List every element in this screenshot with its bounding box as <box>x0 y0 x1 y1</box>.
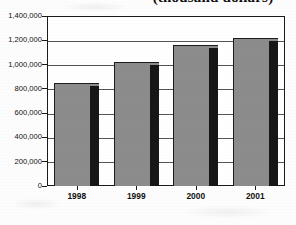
bar-2000 <box>173 45 218 186</box>
bar-shadow <box>150 65 159 186</box>
y-axis: 0200,000400,000600,000800,0001,000,0001,… <box>0 0 42 225</box>
bars-layer <box>47 16 285 186</box>
y-axis-label: 1,400,000 <box>2 12 42 20</box>
y-axis-label: 1,200,000 <box>2 36 42 44</box>
bar-shadow <box>209 48 218 186</box>
y-axis-label: 200,000 <box>2 158 42 166</box>
chart-title: (thousand dollars) <box>130 0 296 6</box>
bar-2001 <box>233 38 278 186</box>
x-axis-label-2000: 2000 <box>176 192 216 200</box>
y-axis-label: 800,000 <box>2 85 42 93</box>
bar-shadow <box>90 86 99 186</box>
x-axis-label-1999: 1999 <box>116 192 156 200</box>
bar-shadow <box>269 41 278 186</box>
bar-1998 <box>54 83 99 186</box>
x-axis-tick <box>77 186 78 190</box>
x-axis-tick <box>255 186 256 190</box>
bar-1999 <box>114 62 159 186</box>
x-axis-tick <box>196 186 197 190</box>
y-axis-label: 1,000,000 <box>2 61 42 69</box>
x-axis-label-2001: 2001 <box>235 192 275 200</box>
bar-chart-figure: (thousand dollars) 0200,000400,000600,00… <box>0 0 296 225</box>
x-axis-label-1998: 1998 <box>57 192 97 200</box>
scan-smudge-top <box>60 2 130 12</box>
x-axis-tick <box>136 186 137 190</box>
y-axis-label: 0 <box>2 182 42 190</box>
y-axis-label: 600,000 <box>2 109 42 117</box>
x-axis: 1998199920002001 <box>47 192 285 208</box>
y-axis-label: 400,000 <box>2 133 42 141</box>
